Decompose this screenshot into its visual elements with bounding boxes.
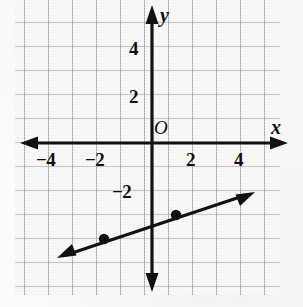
line-arrow-right	[236, 192, 256, 206]
origin-label: O	[154, 118, 167, 137]
x-axis	[20, 137, 288, 150]
plotted-point-2	[171, 210, 181, 220]
y-axis-arrow-up	[146, 5, 159, 24]
x-tick-label-2: 2	[186, 150, 195, 169]
graph-screenshot: −4 −2 2 4 4 2 −2 O x y	[0, 0, 303, 307]
x-tick-label-4: 4	[234, 150, 243, 169]
x-tick-label-neg4: −4	[36, 150, 55, 169]
x-tick-label-neg2: −2	[85, 150, 104, 169]
y-tick-label-neg2: −2	[112, 182, 131, 201]
y-tick-label-4: 4	[129, 39, 138, 58]
y-axis-arrow-down	[146, 273, 159, 292]
plotted-point-1	[99, 234, 109, 244]
x-axis-arrow-right	[270, 137, 288, 150]
y-tick-label-2: 2	[129, 87, 138, 106]
x-axis-name-label: x	[271, 117, 281, 137]
plotted-line	[57, 192, 255, 258]
x-axis-arrow-left	[20, 137, 38, 150]
y-axis	[146, 5, 159, 292]
line-arrow-left	[57, 244, 77, 258]
y-axis-name-label: y	[160, 5, 168, 25]
